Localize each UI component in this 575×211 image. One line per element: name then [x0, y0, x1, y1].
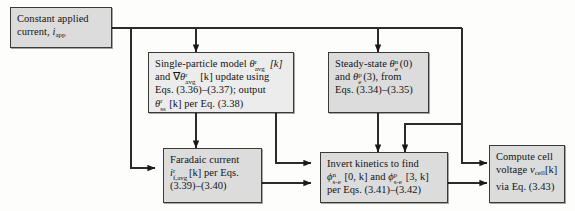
- wire-current-to-computevoltage: [462, 124, 487, 163]
- faradaic-line2: irf,avg[k] per Eqs.: [170, 166, 256, 179]
- steady-state-line2: and θpe(3), from: [335, 70, 423, 83]
- single-particle-line1: Single-particle model θravg[k]: [155, 57, 288, 70]
- flowchart-diagram: Constant applied current, iapp Single-pa…: [0, 0, 575, 211]
- compute-voltage-line1: Compute cell: [496, 150, 559, 163]
- constant-current-line2: current, iapp: [17, 25, 106, 42]
- single-particle-line2: and ∇θravg[k] update using: [155, 70, 288, 83]
- steady-state-line1: Steady-state θne(0): [335, 57, 423, 70]
- wire-singleparticle-to-invertkinetics: [276, 113, 311, 163]
- steady-state-box: Steady-state θne(0) and θpe(3), from Eqs…: [328, 52, 429, 113]
- constant-current-line1: Constant applied: [17, 12, 106, 25]
- single-particle-line3: Eqs. (3.36)–(3.37); output: [155, 83, 288, 96]
- faradaic-current-box: Faradaic current irf,avg[k] per Eqs. (3.…: [163, 148, 262, 203]
- single-particle-line4: θrss[k] per Eq. (3.38): [155, 97, 288, 110]
- invert-kinetics-line1: Invert kinetics to find: [327, 157, 442, 170]
- compute-cell-voltage-box: Compute cell voltage vcell[k] via Eq. (3…: [489, 145, 565, 203]
- invert-kinetics-line3: per Eqs. (3.41)–(3.42): [327, 183, 442, 196]
- single-particle-model-box: Single-particle model θravg[k] and ∇θrav…: [148, 52, 294, 113]
- compute-voltage-line2: voltage vcell[k]: [496, 163, 559, 180]
- steady-state-line3: Eqs. (3.34)–(3.35): [335, 83, 423, 96]
- invert-kinetics-box: Invert kinetics to find ϕns-e[0, k] and …: [320, 152, 448, 203]
- faradaic-line1: Faradaic current: [170, 153, 256, 166]
- constant-applied-current-box: Constant applied current, iapp: [10, 7, 112, 48]
- compute-voltage-line3: via Eq. (3.43): [496, 180, 559, 193]
- invert-kinetics-line2: ϕns-e[0, k] and ϕps-e[3, k]: [327, 170, 442, 183]
